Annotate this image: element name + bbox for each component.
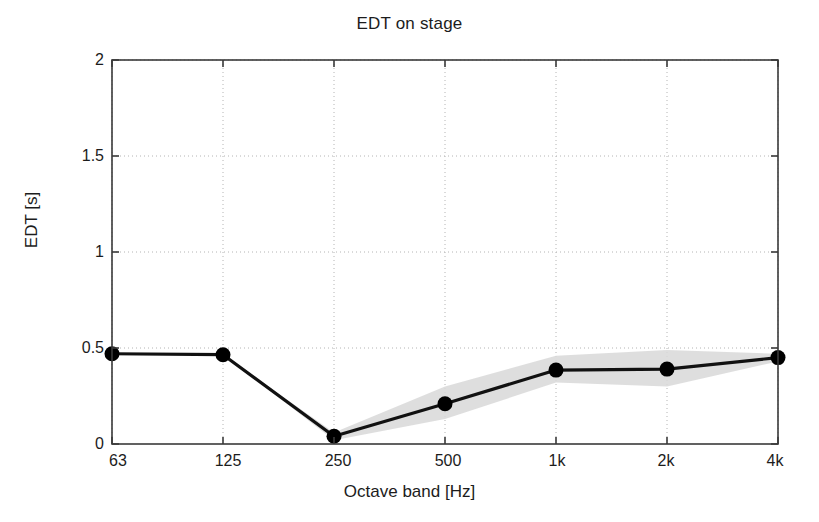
plot-area: [0, 0, 819, 522]
chart-figure: EDT on stage EDT [s] Octave band [Hz] 2 …: [0, 0, 819, 522]
spread-band: [112, 350, 778, 440]
